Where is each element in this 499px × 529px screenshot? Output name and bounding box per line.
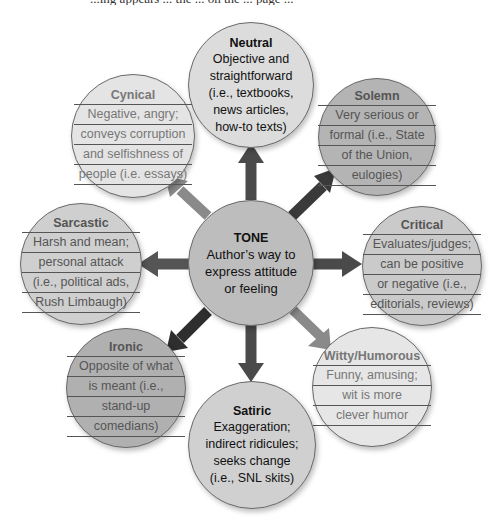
node-text: conveys corruption — [74, 126, 192, 145]
arrow-to-critical — [312, 251, 362, 277]
node-text: (i.e., political ads, — [22, 274, 140, 293]
node-text: Opposite of what — [67, 358, 185, 377]
node-text: Rush Limbaugh) — [22, 294, 140, 313]
node-text: editorials, reviews) — [363, 296, 481, 315]
node-title: Cynical — [74, 87, 192, 105]
node-text: straightforward — [210, 68, 293, 85]
node-text: formal (i.e., State — [318, 127, 436, 146]
node-text: eulogies) — [318, 167, 436, 186]
node-text: or feeling — [224, 280, 277, 297]
node-cynical: Cynical Negative, angry; conveys corrupt… — [71, 74, 195, 198]
arrow-to-sarcastic — [138, 251, 190, 277]
node-text: wit is more — [313, 387, 431, 406]
node-critical: Critical Evaluates/judges; can be positi… — [362, 206, 482, 326]
node-text: Funny, amusing; — [313, 367, 431, 386]
node-text: people (i.e. essays) — [74, 166, 192, 185]
node-text: seeks change — [213, 453, 290, 470]
node-title: Sarcastic — [22, 215, 140, 233]
arrow-to-witty — [293, 310, 331, 350]
node-solemn: Solemn Very serious or formal (i.e., Sta… — [318, 78, 436, 196]
node-text: (i.e., SNL skits) — [210, 470, 294, 487]
node-title: Neutral — [229, 35, 272, 51]
node-text: Author’s way to — [206, 246, 295, 263]
node-ironic: Ironic Opposite of what is meant (i.e., … — [66, 328, 186, 448]
node-title: Solemn — [318, 88, 436, 106]
node-text: news articles, — [213, 102, 289, 119]
node-sarcastic: Sarcastic Harsh and mean; personal attac… — [20, 203, 142, 325]
node-text: indirect ridicules; — [205, 436, 298, 453]
node-title: Ironic — [67, 339, 185, 357]
node-text: can be positive — [363, 256, 481, 275]
node-witty-humorous: Witty/Humorous Funny, amusing; wit is mo… — [312, 327, 432, 447]
node-text: is meant (i.e., — [67, 378, 185, 397]
node-text: how-to texts) — [215, 119, 287, 136]
node-text: express attitude — [205, 263, 297, 280]
node-text: Evaluates/judges; — [363, 236, 481, 255]
node-title: Critical — [363, 217, 481, 235]
node-text: Exaggeration; — [213, 419, 290, 436]
node-text: Harsh and mean; — [22, 234, 140, 253]
node-text: (i.e., textbooks, — [209, 85, 294, 102]
node-text: clever humor — [313, 407, 431, 426]
arrow-to-neutral — [238, 143, 264, 200]
node-text: or negative (i.e., — [363, 276, 481, 295]
node-text: stand-up — [67, 398, 185, 417]
node-title: Witty/Humorous — [313, 348, 431, 366]
node-title: TONE — [234, 230, 269, 246]
node-satiric: Satiric Exaggeration; indirect ridicules… — [188, 381, 316, 509]
node-neutral: Neutral Objective and straightforward (i… — [188, 22, 314, 148]
node-text: of the Union, — [318, 147, 436, 166]
node-text: comedians) — [67, 418, 185, 437]
center-node-tone: TONE Author’s way to express attitude or… — [188, 200, 314, 326]
node-text: Objective and — [213, 51, 289, 68]
node-text: Very serious or — [318, 107, 436, 126]
node-title: Satiric — [233, 403, 271, 419]
node-text: personal attack — [22, 254, 140, 273]
node-text: and selfishness of — [74, 146, 192, 165]
arrow-to-satiric — [238, 325, 264, 382]
node-text: Negative, angry; — [74, 106, 192, 125]
